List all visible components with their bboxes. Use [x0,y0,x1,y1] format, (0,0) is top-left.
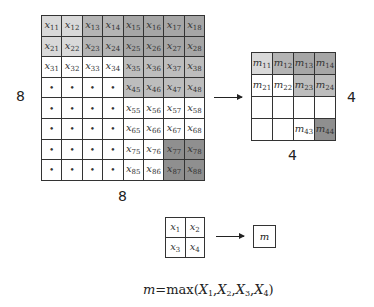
input-cell: x77 [164,139,184,160]
input-cell: • [62,77,82,98]
input-cell: x17 [164,16,184,37]
input-cell: • [62,118,82,139]
input-cell: x76 [143,139,163,160]
input-cell: x36 [143,57,163,78]
input-cell: x33 [82,57,102,78]
pooling-window-2x2: x1x2x3x4 [165,217,205,258]
window-cell: x4 [185,238,205,258]
input-cell: x78 [184,139,204,160]
input-row: ••••x75x76x77x78 [42,139,205,160]
window-cell: x3 [166,238,186,258]
input-cell: x55 [123,98,143,119]
input-cell: x66 [143,118,163,139]
output-cell [252,119,273,141]
input-cell: x46 [143,77,163,98]
input-cell: x22 [62,36,82,57]
output-cell: m23 [294,75,315,97]
input-cell: x37 [164,57,184,78]
input-cell: • [42,160,62,181]
input-cell: • [42,77,62,98]
input-cell: • [82,160,102,181]
input-cols-label: 8 [118,188,127,204]
input-cell: • [103,118,123,139]
output-cell [273,97,294,119]
input-cell: x34 [103,57,123,78]
output-cell: m44 [315,119,336,141]
input-cell: • [82,139,102,160]
output-cell [273,119,294,141]
input-cell: • [42,139,62,160]
input-matrix-8x8: x11x12x13x14x15x16x17x18x21x22x23x24x25x… [41,15,205,181]
input-cell: x45 [123,77,143,98]
input-cell: x23 [82,36,102,57]
input-row: x21x22x23x24x25x26x27x28 [42,36,205,57]
input-cell: x88 [184,160,204,181]
input-cell: • [82,77,102,98]
output-row [252,97,336,119]
output-cell [252,97,273,119]
input-cell: • [103,98,123,119]
input-cell: x15 [123,16,143,37]
window-cell: x1 [166,218,186,238]
output-cols-label: 4 [288,147,297,163]
output-row: m11m12m13m14 [252,53,336,75]
input-cell: x16 [143,16,163,37]
input-cell: x28 [184,36,204,57]
input-cell: • [42,98,62,119]
input-cell: x35 [123,57,143,78]
arrow-icon [216,236,244,237]
input-row: x11x12x13x14x15x16x17x18 [42,16,205,37]
output-cell: m24 [315,75,336,97]
window-cell: x2 [185,218,205,238]
output-cell: m43 [294,119,315,141]
output-cell: m22 [273,75,294,97]
output-cell: m12 [273,53,294,75]
input-cell: x56 [143,98,163,119]
input-cell: • [62,160,82,181]
input-cell: • [82,98,102,119]
input-row: ••••x65x66x67x68 [42,118,205,139]
input-row: x31x32x33x34x35x36x37x38 [42,57,205,78]
input-cell: x11 [42,16,62,37]
output-rows-label: 4 [347,89,356,105]
input-rows-label: 8 [16,88,25,104]
input-cell: • [42,118,62,139]
input-cell: x25 [123,36,143,57]
input-cell: x87 [164,160,184,181]
output-cell: m11 [252,53,273,75]
output-row: m21m22m23m24 [252,75,336,97]
input-row: ••••x85x86x87x88 [42,160,205,181]
input-cell: x21 [42,36,62,57]
input-cell: • [62,139,82,160]
output-cell: m13 [294,53,315,75]
input-cell: • [82,118,102,139]
input-cell: • [62,98,82,119]
input-cell: x13 [82,16,102,37]
input-row: ••••x45x46x47x48 [42,77,205,98]
output-row: m43m44 [252,119,336,141]
input-cell: x38 [184,57,204,78]
window-row: x3x4 [166,238,205,258]
max-pooling-formula: m=max(X1,X2,X3,X4) [143,282,274,298]
output-cell: m14 [315,53,336,75]
output-cell: m21 [252,75,273,97]
input-cell: • [103,160,123,181]
input-cell: x18 [184,16,204,37]
input-cell: x75 [123,139,143,160]
output-cell [315,97,336,119]
input-cell: x12 [62,16,82,37]
input-row: ••••x55x56x57x58 [42,98,205,119]
input-cell: x86 [143,160,163,181]
output-cell [294,97,315,119]
input-cell: x27 [164,36,184,57]
input-cell: x68 [184,118,204,139]
input-cell: • [103,139,123,160]
input-cell: x65 [123,118,143,139]
input-cell: x47 [164,77,184,98]
input-cell: x57 [164,98,184,119]
arrow-icon [214,97,242,98]
input-cell: x67 [164,118,184,139]
input-cell: x32 [62,57,82,78]
input-cell: x24 [103,36,123,57]
input-cell: • [103,77,123,98]
